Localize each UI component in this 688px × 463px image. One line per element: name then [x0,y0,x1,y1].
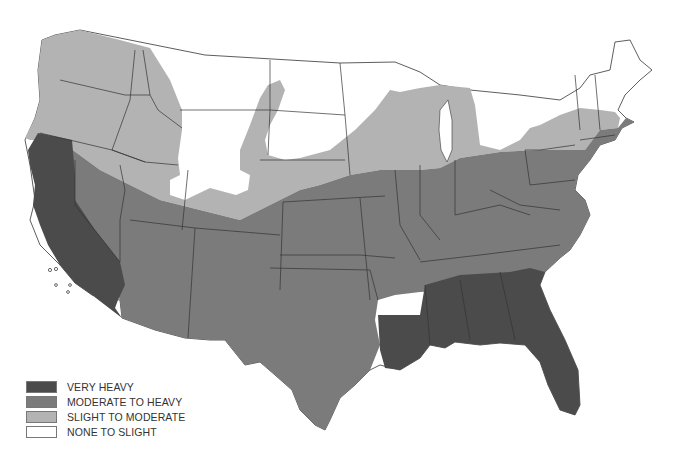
legend-item-slight-to-moderate: SLIGHT TO MODERATE [26,409,185,424]
legend-label: SLIGHT TO MODERATE [67,411,185,423]
legend-swatch-moderate-to-heavy [26,396,57,408]
legend-label: MODERATE TO HEAVY [67,396,182,408]
legend-item-very-heavy: VERY HEAVY [26,379,185,394]
legend-swatch-slight-to-moderate [26,411,57,423]
legend-label: NONE TO SLIGHT [67,426,157,438]
legend-swatch-very-heavy [26,381,57,393]
legend-item-none-to-slight: NONE TO SLIGHT [26,424,185,439]
legend-swatch-none-to-slight [26,426,57,438]
legend-label: VERY HEAVY [67,381,134,393]
legend-item-moderate-to-heavy: MODERATE TO HEAVY [26,394,185,409]
map-legend: VERY HEAVY MODERATE TO HEAVY SLIGHT TO M… [26,379,185,439]
